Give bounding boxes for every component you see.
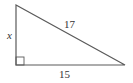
horizontal-leg-label: 15 <box>59 68 71 80</box>
right-angle-marker <box>16 57 24 65</box>
hypotenuse-label: 17 <box>64 18 76 30</box>
triangle <box>16 5 125 65</box>
right-triangle-diagram: x 17 15 <box>0 0 133 83</box>
vertical-leg-label: x <box>6 29 12 41</box>
